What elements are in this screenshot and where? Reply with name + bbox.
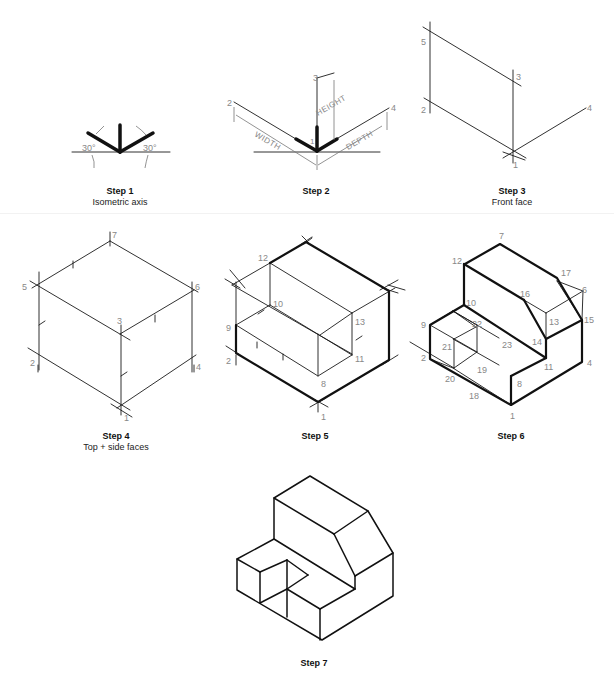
final-object-diagram bbox=[0, 0, 614, 683]
step-7-title: Step 7 bbox=[214, 658, 414, 669]
step-7-caption: Step 7 bbox=[214, 658, 414, 669]
step-7-panel: Step 7 bbox=[0, 0, 614, 683]
